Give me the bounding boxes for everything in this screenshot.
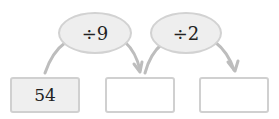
operation-label: ÷9	[82, 23, 109, 44]
start-value: 54	[34, 85, 56, 105]
arc-in-1	[45, 42, 66, 73]
operation-divide-2: ÷2	[150, 12, 222, 54]
operation-divide-9: ÷9	[58, 12, 132, 54]
arc-in-2	[145, 44, 162, 73]
answer-box-2[interactable]	[199, 77, 269, 113]
operation-label: ÷2	[173, 23, 200, 44]
answer-box-1[interactable]	[105, 77, 175, 113]
start-value-box: 54	[10, 77, 80, 113]
arrowhead-2	[228, 61, 238, 71]
arc-out-1	[125, 42, 140, 70]
